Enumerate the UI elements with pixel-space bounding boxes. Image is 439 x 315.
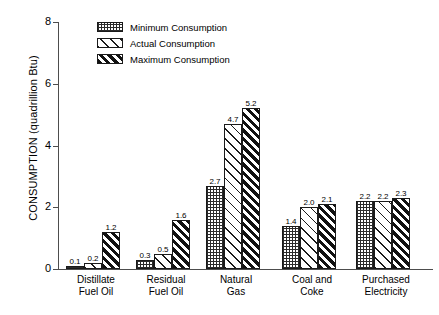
legend-item-maximum: Maximum Consumption [97,52,230,66]
bar-actual: 2.0 [300,207,318,269]
y-tick-mark [53,146,58,147]
legend-label: Actual Consumption [130,38,215,49]
y-tick-mark [53,269,58,270]
bar-value-label: 0.5 [157,245,168,254]
bar-value-label: 2.2 [377,192,388,201]
y-tick-mark [53,84,58,85]
y-tick-label: 2 [45,200,51,213]
bar-value-label: 2.3 [395,189,406,198]
bar-max: 2.3 [392,198,410,269]
bar-value-label: 1.4 [285,217,296,226]
x-category-line1: Purchased [338,274,434,286]
bar-group: 2.2 2.2 2.3 [356,22,416,269]
bar-actual: 4.7 [224,124,242,269]
legend-label: Minimum Consumption [130,22,227,33]
legend-label: Maximum Consumption [130,54,230,65]
x-category-line2: Electricity [338,286,434,298]
x-axis-line [58,269,433,270]
y-axis-title: CONSUMPTION (quadrillion Btu) [27,33,39,243]
bar-min: 1.4 [282,226,300,269]
bar-max: 1.2 [102,232,120,269]
bar-actual: 2.2 [374,201,392,269]
legend-item-minimum: Minimum Consumption [97,20,230,34]
y-tick-mark [53,22,58,23]
bar-value-label: 2.7 [209,177,220,186]
bar-max: 5.2 [242,108,260,269]
bar-actual: 0.5 [154,254,172,269]
y-axis-line [58,22,59,270]
bar-value-label: 1.2 [105,223,116,232]
y-tick-label: 4 [45,139,51,152]
x-category-label: Purchased Electricity [338,274,434,298]
bar-min: 2.2 [356,201,374,269]
bar-value-label: 0.3 [139,251,150,260]
bar-min: 2.7 [206,186,224,269]
bar-max: 2.1 [318,204,336,269]
y-tick-label: 8 [45,15,51,28]
bar-value-label: 2.0 [303,198,314,207]
bar-min: 0.1 [66,266,84,269]
y-tick-mark [53,207,58,208]
bar-value-label: 5.2 [245,99,256,108]
legend-swatch-maximum-icon [97,54,123,64]
bar-actual: 0.2 [84,263,102,269]
y-tick-label: 6 [45,77,51,90]
bar-min: 0.3 [136,260,154,269]
bar-value-label: 4.7 [227,115,238,124]
legend-item-actual: Actual Consumption [97,36,230,50]
bar-value-label: 2.2 [359,192,370,201]
chart-legend: Minimum Consumption Actual Consumption M… [97,20,230,68]
bar-value-label: 1.6 [175,211,186,220]
bar-value-label: 0.2 [87,254,98,263]
legend-swatch-actual-icon [97,38,123,48]
bar-group: 1.4 2.0 2.1 [282,22,342,269]
bar-value-label: 2.1 [321,195,332,204]
bar-value-label: 0.1 [69,257,80,266]
legend-swatch-minimum-icon [97,22,123,32]
bar-max: 1.6 [172,220,190,269]
bar-chart: CONSUMPTION (quadrillion Btu) 0 2 4 6 8 [0,0,439,315]
